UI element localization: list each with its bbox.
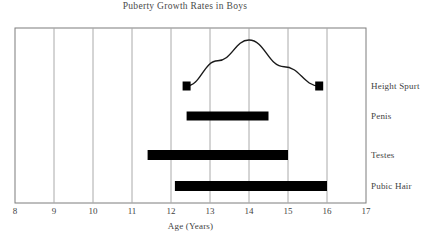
x-tick-label: 15 [284, 206, 293, 216]
x-tick-label: 8 [13, 206, 18, 216]
x-tick-label: 16 [323, 206, 332, 216]
x-tick-label: 13 [206, 206, 215, 216]
x-tick-label: 14 [245, 206, 254, 216]
x-tick-label: 17 [362, 206, 371, 216]
category-label-height-spurt: Height Spurt [371, 81, 420, 91]
x-tick-label: 10 [89, 206, 98, 216]
height-spurt-marker-start [183, 82, 191, 91]
bar-testes [148, 150, 288, 160]
category-label-penis: Penis [371, 111, 392, 121]
height-spurt-line [187, 40, 320, 86]
category-label-testes: Testes [371, 150, 395, 160]
x-tick-label: 9 [52, 206, 57, 216]
x-tick-label: 11 [128, 206, 137, 216]
chart-container: Puberty Growth Rates in Boys Height Spur… [0, 0, 432, 249]
height-spurt-curve [187, 40, 320, 86]
bars-layer [148, 112, 327, 192]
height-spurt-marker-end [315, 82, 323, 91]
height-spurt-markers [183, 82, 324, 91]
category-label-pubic-hair: Pubic Hair [371, 181, 412, 191]
x-tick-label: 12 [167, 206, 176, 216]
bar-penis [187, 112, 269, 121]
bar-pubic-hair [175, 181, 327, 191]
x-axis-title: Age (Years) [15, 221, 366, 231]
